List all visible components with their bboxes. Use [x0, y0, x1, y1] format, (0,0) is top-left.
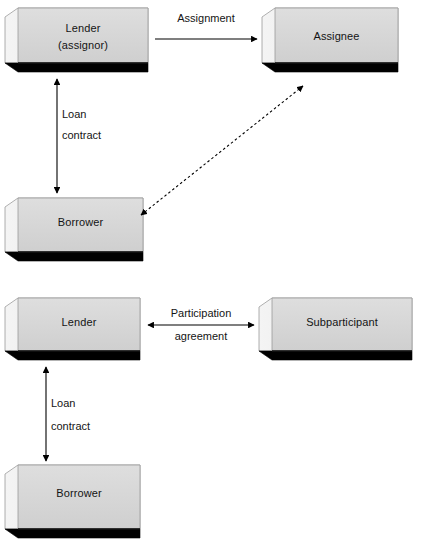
edge-label-participation-bottom-text: agreement	[151, 329, 251, 344]
node-label-lender-assignor-line1: Lender	[18, 20, 148, 37]
node-subparticipant[interactable]	[259, 298, 412, 360]
edge-label-loan-contract-bottom-line2: contract	[51, 419, 111, 434]
edge-label-assignment-line1: Assignment	[156, 11, 256, 26]
diagram-canvas: Lender (assignor) Assignee Borrower Assi…	[0, 0, 426, 551]
edge-label-loan-contract-top: Loan contract	[62, 107, 122, 143]
diagram-graphics	[0, 0, 426, 551]
node-borrower-bottom[interactable]	[5, 465, 140, 538]
node-lender-bottom[interactable]	[5, 298, 140, 360]
node-label-subparticipant-line1: Subparticipant	[272, 315, 412, 329]
node-label-borrower-bottom-line1: Borrower	[18, 486, 140, 500]
node-label-borrower-top-line1: Borrower	[18, 215, 143, 229]
edge-label-loan-contract-top-line1: Loan	[62, 107, 122, 122]
edge-borrower-assignee-dashed	[141, 86, 303, 215]
node-label-lender-bottom: Lender	[18, 315, 140, 329]
edge-label-participation-line1: Participation	[151, 306, 251, 321]
edge-label-loan-contract-top-line2: contract	[62, 128, 122, 143]
edge-label-participation-line2: agreement	[151, 329, 251, 344]
node-borrower-top[interactable]	[5, 198, 143, 261]
node-label-borrower-top: Borrower	[18, 215, 143, 229]
node-label-lender-assignor-line2: (assignor)	[18, 37, 148, 54]
edge-label-assignment: Assignment	[156, 11, 256, 26]
node-label-lender-assignor: Lender (assignor)	[18, 20, 148, 54]
node-label-assignee-line1: Assignee	[275, 29, 398, 43]
node-label-lender-bottom-line1: Lender	[18, 315, 140, 329]
edge-label-participation-top-text: Participation	[151, 306, 251, 321]
node-label-assignee: Assignee	[275, 29, 398, 43]
node-label-borrower-bottom: Borrower	[18, 486, 140, 500]
edge-label-loan-contract-bottom: Loan contract	[51, 396, 111, 434]
edge-label-loan-contract-bottom-line1: Loan	[51, 396, 111, 411]
node-label-subparticipant: Subparticipant	[272, 315, 412, 329]
